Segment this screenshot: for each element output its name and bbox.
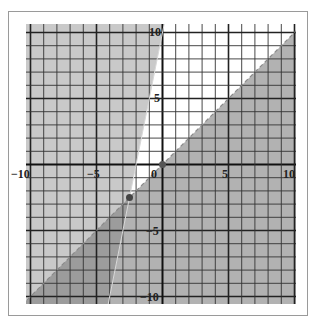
x-tick-label: −10 (11, 167, 30, 181)
point-origin (159, 161, 166, 168)
x-tick-label: 0 (151, 167, 157, 181)
y-tick-label: 10 (149, 25, 161, 39)
y-tick-label: 5 (154, 91, 160, 105)
y-tick-label: −5 (146, 224, 159, 238)
x-tick-label: −5 (87, 167, 100, 181)
x-tick-label: 10 (283, 167, 295, 181)
y-tick-label: −10 (140, 290, 159, 304)
point-intersection (126, 194, 133, 201)
coordinate-plane: −10 −5 0 5 10 10 5 −5 −10 (0, 0, 316, 326)
x-tick-label: 5 (222, 167, 228, 181)
